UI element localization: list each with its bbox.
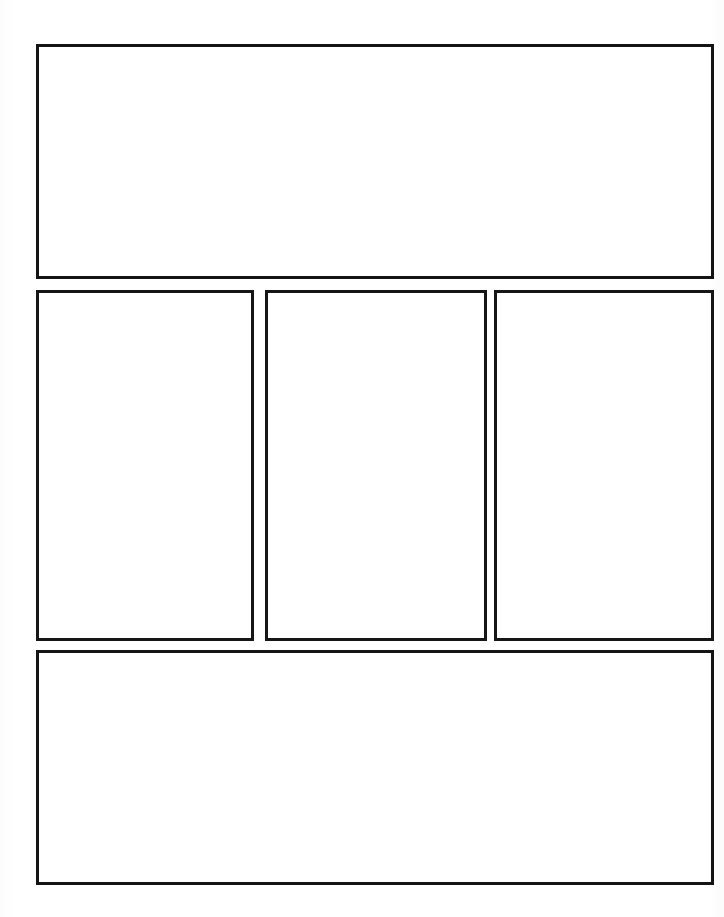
comic-panel-middle-left[interactable] [36,290,254,641]
comic-panel-middle-right[interactable] [494,290,714,641]
comic-panel-middle-center-content [268,293,484,638]
comic-panel-middle-center[interactable] [265,290,487,641]
comic-panel-top-content [39,47,711,276]
comic-panel-bottom-content [39,653,711,882]
comic-panel-middle-right-content [497,293,711,638]
comic-panel-middle-left-content [39,293,251,638]
comic-panel-bottom[interactable] [36,650,714,885]
comic-panel-top[interactable] [36,44,714,279]
comic-page [0,0,724,917]
